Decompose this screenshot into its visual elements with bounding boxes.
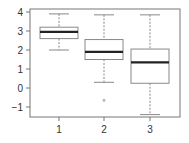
y-tick-label: −1 (12, 102, 24, 113)
y-tick-label: 1 (17, 64, 23, 75)
boxes-group (40, 14, 169, 115)
box-2 (85, 15, 123, 102)
y-tick-label: 3 (17, 26, 23, 37)
outlier-point (103, 99, 105, 101)
y-tick-label: 4 (17, 7, 23, 18)
x-tick-label: 2 (101, 124, 107, 135)
y-tick-label: 0 (17, 83, 23, 94)
x-axis: 123 (56, 117, 153, 135)
y-axis: −101234 (12, 7, 30, 113)
box-1 (40, 14, 78, 50)
iqr-box (85, 40, 123, 60)
y-tick-label: 2 (17, 45, 23, 56)
x-tick-label: 1 (56, 124, 62, 135)
box-plot-chart: −101234 123 (0, 0, 189, 143)
iqr-box (131, 49, 169, 83)
box-3 (131, 15, 169, 115)
x-tick-label: 3 (147, 124, 153, 135)
